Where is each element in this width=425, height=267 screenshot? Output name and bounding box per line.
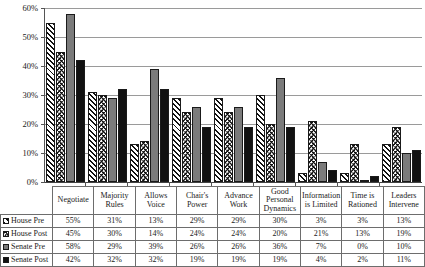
bar-senate-post — [412, 150, 421, 182]
bar-group — [44, 8, 86, 182]
table-cell: 3% — [300, 215, 341, 228]
bar-senate-post — [202, 127, 211, 182]
table-row: House Pre55%31%13%29%29%30%3%3%13% — [1, 215, 425, 228]
bar-senate-pre — [402, 153, 411, 182]
bar-group — [338, 8, 380, 182]
table-corner-cell — [1, 187, 53, 215]
bar-house-post — [350, 144, 359, 182]
legend-label: House Pre — [11, 216, 44, 225]
bar-house-post — [56, 52, 65, 183]
column-header: Leaders Intervene — [383, 187, 424, 215]
legend-item-senate-pre: Senate Pre — [1, 241, 53, 254]
bar-senate-pre — [192, 107, 201, 182]
bar-house-post — [308, 121, 317, 182]
bar-senate-pre — [318, 162, 327, 182]
bar-house-pre — [130, 144, 139, 182]
bar-group — [380, 8, 422, 182]
table-cell: 13% — [383, 215, 424, 228]
bar-house-post — [98, 95, 107, 182]
table-row: Senate Pre58%29%39%26%26%36%7%0%10% — [1, 241, 425, 254]
legend-swatch-icon — [3, 257, 9, 263]
bar-house-post — [140, 141, 149, 182]
column-header: Information is Limited — [300, 187, 341, 215]
column-header: Allows Voice — [135, 187, 176, 215]
table-cell: 4% — [300, 254, 341, 267]
bar-senate-post — [118, 89, 127, 182]
bar-group — [254, 8, 296, 182]
table-cell: 11% — [383, 254, 424, 267]
table-cell: 0% — [342, 241, 383, 254]
table-cell: 45% — [53, 228, 94, 241]
table-header-row: NegotiateMajority RulesAllows VoiceChair… — [1, 187, 425, 215]
legend-swatch-icon — [3, 244, 9, 250]
table-head: NegotiateMajority RulesAllows VoiceChair… — [1, 187, 425, 215]
bar-house-pre — [46, 23, 55, 183]
bars-layer — [44, 8, 422, 182]
bar-group — [128, 8, 170, 182]
table-cell: 32% — [135, 254, 176, 267]
legend-item-house-pre: House Pre — [1, 215, 53, 228]
table-cell: 36% — [259, 241, 300, 254]
table-body: House Pre55%31%13%29%29%30%3%3%13%House … — [1, 215, 425, 267]
table-cell: 19% — [383, 228, 424, 241]
y-tick-label-30: 30% — [22, 91, 38, 100]
bar-senate-post — [328, 170, 337, 182]
table-cell: 24% — [218, 228, 259, 241]
bar-senate-pre — [360, 180, 369, 182]
bar-house-post — [182, 112, 191, 182]
bar-senate-pre — [108, 98, 117, 182]
bar-senate-pre — [150, 69, 159, 182]
table-cell: 19% — [218, 254, 259, 267]
column-header: Time is Rationed — [342, 187, 383, 215]
bar-senate-pre — [276, 78, 285, 182]
table-cell: 10% — [383, 241, 424, 254]
y-tick-mark-0 — [41, 182, 45, 183]
column-header: Advance Work — [218, 187, 259, 215]
table-row: Senate Post42%32%32%19%19%19%4%2%11% — [1, 254, 425, 267]
table-cell: 19% — [176, 254, 217, 267]
table-cell: 31% — [94, 215, 135, 228]
table-cell: 19% — [259, 254, 300, 267]
legend-label: House Post — [11, 229, 47, 238]
gridline-0 — [45, 182, 422, 183]
table-cell: 20% — [259, 228, 300, 241]
table-cell: 14% — [135, 228, 176, 241]
table-cell: 55% — [53, 215, 94, 228]
bar-group — [212, 8, 254, 182]
column-header: Majority Rules — [94, 187, 135, 215]
y-tick-label-0: 0% — [27, 178, 38, 187]
table-cell: 7% — [300, 241, 341, 254]
table-cell: 30% — [259, 215, 300, 228]
legend-swatch-icon — [3, 231, 9, 237]
column-header: Good Personal Dynamics — [259, 187, 300, 215]
table-cell: 30% — [94, 228, 135, 241]
bar-house-pre — [172, 98, 181, 182]
legend-item-house-post: House Post — [1, 228, 53, 241]
bar-house-post — [266, 124, 275, 182]
bar-house-post — [392, 127, 401, 182]
bar-senate-post — [286, 127, 295, 182]
table-cell: 13% — [135, 215, 176, 228]
bar-group — [296, 8, 338, 182]
table-cell: 2% — [342, 254, 383, 267]
table-cell: 24% — [176, 228, 217, 241]
bar-house-pre — [298, 173, 307, 182]
table-cell: 3% — [342, 215, 383, 228]
column-header: Negotiate — [53, 187, 94, 215]
bar-senate-pre — [66, 14, 75, 182]
table-cell: 21% — [300, 228, 341, 241]
bar-group — [86, 8, 128, 182]
legend-swatch-icon — [3, 218, 9, 224]
table-cell: 26% — [176, 241, 217, 254]
bar-group — [170, 8, 212, 182]
table-cell: 32% — [94, 254, 135, 267]
bar-house-pre — [214, 98, 223, 182]
legend-label: Senate Post — [11, 255, 48, 264]
y-tick-label-50: 50% — [22, 33, 38, 42]
table-cell: 42% — [53, 254, 94, 267]
table-cell: 29% — [176, 215, 217, 228]
bar-senate-post — [160, 89, 169, 182]
table-cell: 29% — [218, 215, 259, 228]
column-header: Chair's Power — [176, 187, 217, 215]
